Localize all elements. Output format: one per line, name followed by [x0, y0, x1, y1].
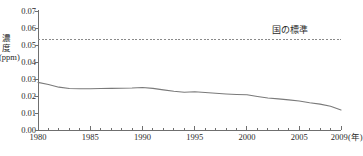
x-axis-unit-label: (年): [348, 133, 363, 142]
reference-line-label: 国の標準: [272, 26, 308, 35]
data-series-line: [38, 82, 341, 110]
